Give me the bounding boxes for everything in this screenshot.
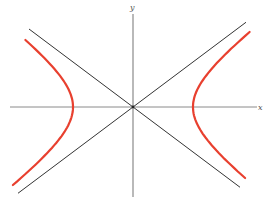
x-axis-label: x [258,103,263,112]
origin-point [132,106,135,109]
y-axis-label: y [129,3,135,12]
hyperbola-plot: x y [0,0,270,197]
hyperbola-right-branch [193,32,250,178]
hyperbola-left-branch [13,40,73,185]
asymptote-negative-slope [29,29,240,187]
